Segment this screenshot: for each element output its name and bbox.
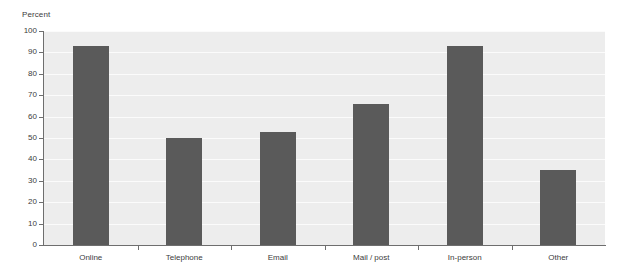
bar <box>73 46 109 245</box>
bar-chart: Percent 1009080706050403020100 OnlineTel… <box>0 0 618 278</box>
x-axis-tick-label: Mail / post <box>325 253 419 262</box>
x-axis-tick <box>231 246 232 250</box>
gridline <box>44 117 605 118</box>
x-axis-tick-label: In-person <box>418 253 512 262</box>
x-axis-tick <box>325 246 326 250</box>
y-axis-tick-label: 30 <box>3 177 37 185</box>
y-axis-tick <box>39 181 44 182</box>
gridline <box>44 95 605 96</box>
plot-area <box>44 31 605 245</box>
y-axis-tick-label: 10 <box>3 220 37 228</box>
gridline <box>44 224 605 225</box>
y-axis-tick <box>39 117 44 118</box>
gridline <box>44 52 605 53</box>
y-axis-tick-label: 20 <box>3 198 37 206</box>
bar <box>166 138 202 245</box>
gridline <box>44 202 605 203</box>
gridline <box>44 31 605 32</box>
bar <box>540 170 576 245</box>
y-axis-tick <box>39 31 44 32</box>
y-axis-tick-label: 60 <box>3 113 37 121</box>
y-axis-tick-label: 0 <box>3 241 37 249</box>
y-axis-tick <box>39 95 44 96</box>
y-axis-tick <box>39 74 44 75</box>
y-axis-tick <box>39 52 44 53</box>
gridline <box>44 138 605 139</box>
x-axis-tick-label: Other <box>512 253 606 262</box>
y-axis-tick-label: 80 <box>3 70 37 78</box>
y-axis-tick <box>39 159 44 160</box>
bar <box>447 46 483 245</box>
y-axis-tick-label: 90 <box>3 48 37 56</box>
y-axis-tick-label: 50 <box>3 134 37 142</box>
y-axis-tick-labels: 1009080706050403020100 <box>0 0 37 278</box>
y-axis-tick-label: 70 <box>3 91 37 99</box>
bar <box>260 132 296 245</box>
bar <box>353 104 389 245</box>
y-axis-tick-label: 40 <box>3 155 37 163</box>
y-axis-tick <box>39 138 44 139</box>
x-axis-tick-label: Online <box>44 253 138 262</box>
y-axis-tick <box>39 224 44 225</box>
x-axis-tick-label: Telephone <box>138 253 232 262</box>
x-axis-tick <box>138 246 139 250</box>
x-axis-tick <box>512 246 513 250</box>
gridline <box>44 159 605 160</box>
x-axis-tick <box>418 246 419 250</box>
gridline <box>44 74 605 75</box>
y-axis-tick <box>39 202 44 203</box>
y-axis-tick-label: 100 <box>3 27 37 35</box>
gridline <box>44 181 605 182</box>
x-axis-tick-label: Email <box>231 253 325 262</box>
